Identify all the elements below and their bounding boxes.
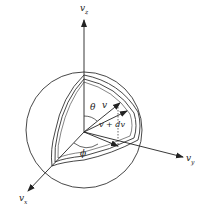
vz-axis-label: vz <box>80 4 88 15</box>
v-label: v <box>102 101 107 110</box>
theta-arc <box>84 116 97 121</box>
v-plus-dv-label: v + dv <box>99 121 125 129</box>
figure-caption <box>40 211 180 217</box>
vy-axis <box>84 132 183 157</box>
velocity-sphere-diagram: vz vy vx θ v v + dv ϕ <box>0 0 206 217</box>
vy-axis-label: vy <box>186 154 194 165</box>
theta-label: θ <box>90 103 95 112</box>
phi-arc <box>74 143 98 148</box>
phi-label: ϕ <box>80 149 86 158</box>
vx-axis-label: vx <box>19 194 27 205</box>
